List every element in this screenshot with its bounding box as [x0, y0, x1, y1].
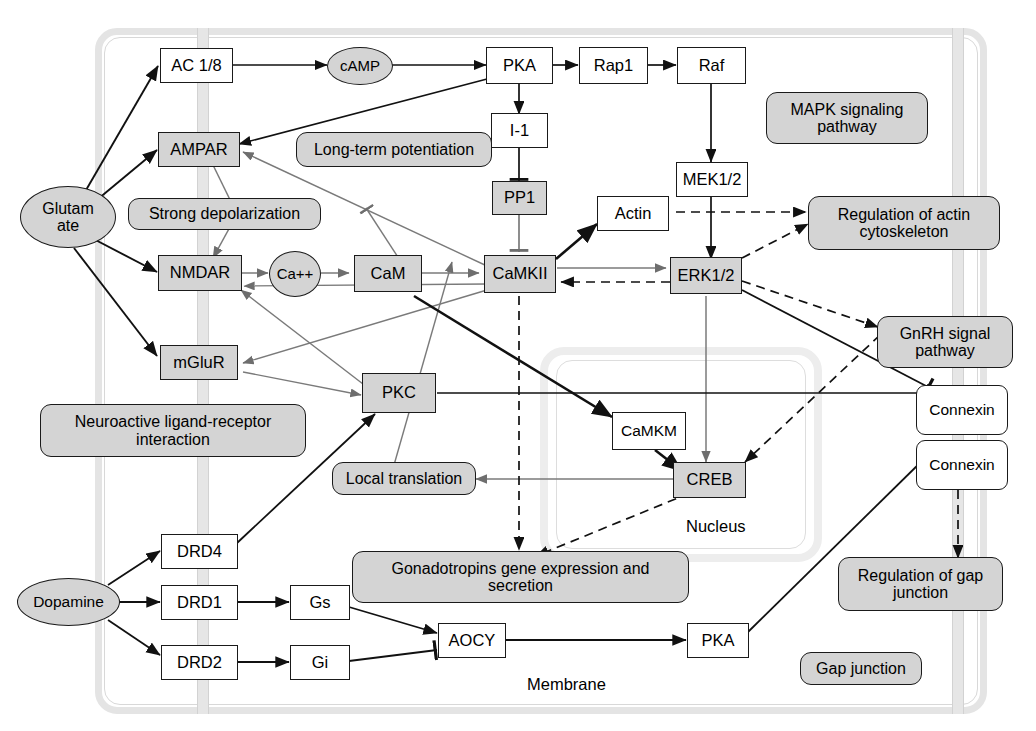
node-connexin-top[interactable]: Connexin	[916, 385, 1008, 435]
node-creb-label: CREB	[687, 471, 733, 489]
pathway-diagram: Glutam ate Dopamine AC 1/8 AMPAR NMDAR m…	[0, 0, 1036, 731]
node-pkc-label: PKC	[382, 384, 416, 402]
node-drd4-label: DRD4	[177, 543, 222, 561]
node-drd1-label: DRD1	[177, 594, 222, 612]
node-pka-bottom-label: PKA	[701, 632, 734, 650]
annotation-neuroactive-ligand-receptor-interaction[interactable]: Neuroactive ligand-receptor interaction	[40, 404, 306, 457]
annotation-neuroactive-line1: Neuroactive ligand-receptor	[75, 413, 272, 430]
node-camkii[interactable]: CaMKII	[484, 255, 556, 293]
node-actin[interactable]: Actin	[597, 196, 669, 231]
annotation-reg-gap-line1: Regulation of gap	[858, 567, 983, 584]
annotation-strong-depolarization[interactable]: Strong depolarization	[128, 198, 321, 230]
node-gs-label: Gs	[309, 594, 330, 612]
node-mek-1-2-label: MEK1/2	[683, 171, 742, 189]
node-drd2[interactable]: DRD2	[161, 645, 238, 680]
node-cam-label: CaM	[371, 265, 406, 283]
annotation-gnrh-line2: pathway	[915, 342, 975, 359]
node-ca[interactable]: Ca++	[269, 251, 321, 297]
node-gi-label: Gi	[312, 654, 329, 672]
annotation-gonadotropins-line2: secretion	[488, 577, 553, 594]
annotation-gap-junction-label: Gap junction	[816, 660, 906, 677]
node-camkii-label: CaMKII	[492, 265, 547, 283]
annotation-neuroactive-line2: interaction	[136, 431, 210, 448]
node-erk-1-2-label: ERK1/2	[678, 267, 735, 285]
node-i-1-label: I-1	[510, 122, 529, 140]
node-raf-label: Raf	[699, 57, 725, 75]
annotation-gonadotropins-line1: Gonadotropins gene expression and	[392, 560, 650, 577]
annotation-mapk-line1: MAPK signaling	[791, 101, 904, 118]
annotation-mapk-signaling-pathway[interactable]: MAPK signaling pathway	[766, 92, 928, 144]
node-ampar[interactable]: AMPAR	[158, 132, 240, 167]
annotation-local-translation-label: Local translation	[346, 470, 463, 487]
node-rap1-label: Rap1	[594, 57, 633, 75]
node-drd1[interactable]: DRD1	[161, 585, 238, 620]
node-pkc[interactable]: PKC	[362, 373, 436, 413]
annotation-reg-gap-line2: junction	[893, 584, 948, 601]
node-actin-label: Actin	[615, 205, 652, 223]
node-glutamate-label-line1: Glutam	[42, 200, 94, 217]
annotation-gap-junction[interactable]: Gap junction	[800, 652, 922, 685]
node-drd2-label: DRD2	[177, 654, 222, 672]
annotation-reg-actin-line1: Regulation of actin	[838, 206, 971, 223]
node-gi[interactable]: Gi	[290, 645, 350, 680]
node-camp-label: cAMP	[340, 58, 380, 74]
annotation-regulation-of-actin-cytoskeleton[interactable]: Regulation of actin cytoskeleton	[808, 196, 1000, 250]
node-drd4[interactable]: DRD4	[161, 534, 238, 569]
annotation-gonadotropins-gene-expression[interactable]: Gonadotropins gene expression and secret…	[352, 551, 689, 603]
node-connexin-bottom-label: Connexin	[929, 457, 995, 474]
node-mglur-label: mGluR	[173, 354, 224, 372]
node-nmdar-label: NMDAR	[170, 264, 231, 282]
membrane-label: Membrane	[527, 675, 606, 694]
node-pp1-label: PP1	[504, 189, 535, 207]
node-pka-bottom[interactable]: PKA	[687, 623, 749, 658]
node-cam[interactable]: CaM	[354, 255, 422, 292]
node-mglur[interactable]: mGluR	[160, 345, 238, 380]
node-raf[interactable]: Raf	[677, 47, 746, 84]
annotation-gnrh-signal-pathway[interactable]: GnRH signal pathway	[877, 316, 1013, 368]
node-i-1[interactable]: I-1	[491, 113, 548, 148]
annotation-long-term-potentiation-label: Long-term potentiation	[314, 141, 474, 158]
node-dopamine[interactable]: Dopamine	[17, 578, 120, 626]
node-connexin-bottom[interactable]: Connexin	[916, 440, 1008, 490]
node-ac-1-8[interactable]: AC 1/8	[160, 48, 233, 83]
node-aocy-label: AOCY	[449, 632, 496, 650]
node-connexin-top-label: Connexin	[929, 402, 995, 419]
annotation-local-translation[interactable]: Local translation	[332, 462, 476, 495]
node-aocy[interactable]: AOCY	[438, 623, 506, 658]
node-rap1[interactable]: Rap1	[579, 47, 648, 84]
node-ampar-label: AMPAR	[170, 141, 227, 159]
annotation-regulation-of-gap-junction[interactable]: Regulation of gap junction	[838, 557, 1003, 611]
node-ac-1-8-label: AC 1/8	[171, 57, 221, 75]
annotation-long-term-potentiation[interactable]: Long-term potentiation	[296, 132, 492, 167]
node-gs[interactable]: Gs	[290, 585, 350, 620]
node-creb[interactable]: CREB	[673, 462, 746, 498]
node-pp1[interactable]: PP1	[492, 181, 547, 215]
node-glutamate[interactable]: Glutam ate	[20, 186, 116, 248]
node-dopamine-label: Dopamine	[33, 594, 104, 611]
node-camkm[interactable]: CaMKM	[612, 412, 686, 450]
node-pka-top[interactable]: PKA	[486, 47, 553, 84]
node-glutamate-label-line2: ate	[57, 217, 79, 234]
node-ca-label: Ca++	[277, 266, 314, 282]
annotation-reg-actin-line2: cytoskeleton	[860, 223, 949, 240]
node-erk-1-2[interactable]: ERK1/2	[670, 257, 742, 294]
nucleus-label: Nucleus	[686, 517, 746, 536]
node-pka-top-label: PKA	[503, 57, 536, 75]
node-mek-1-2[interactable]: MEK1/2	[676, 162, 748, 197]
annotation-strong-depolarization-label: Strong depolarization	[149, 205, 300, 222]
node-nmdar[interactable]: NMDAR	[158, 255, 242, 291]
node-camkm-label: CaMKM	[621, 423, 677, 440]
node-camp[interactable]: cAMP	[327, 47, 393, 85]
annotation-mapk-line2: pathway	[817, 118, 877, 135]
annotation-gnrh-line1: GnRH signal	[900, 325, 991, 342]
